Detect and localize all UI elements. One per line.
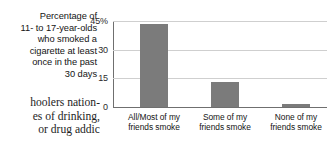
bar-all-most[interactable] — [140, 24, 168, 107]
y-tick-label-15: 15 — [98, 73, 108, 83]
x-axis-baseline — [113, 107, 327, 108]
plot-area: 45% 30 15 0 All/Most of my friends smoke… — [113, 21, 327, 107]
bar-chart: 45% 30 15 0 All/Most of my friends smoke… — [86, 8, 327, 141]
gridline-45 — [113, 21, 327, 22]
page-body-text: hoolers nation- es of drinking, or drug … — [0, 96, 100, 141]
caption-line: once in the past — [0, 57, 97, 69]
caption-line: Percentage of — [0, 11, 97, 23]
y-axis-line — [113, 21, 114, 107]
bar-none[interactable] — [282, 104, 310, 107]
x-label-line: None of my — [275, 112, 317, 122]
caption-line: who smoked a — [0, 34, 97, 46]
x-label-none: None of my friends smoke — [270, 112, 321, 132]
y-tick-label-0: 0 — [103, 102, 108, 112]
caption-line: 11- to 17-year-olds — [0, 23, 97, 35]
bar-some[interactable] — [211, 82, 239, 107]
caption-line: cigarette at least — [0, 46, 97, 58]
chart-caption: Percentage of 11- to 17-year-olds who sm… — [0, 11, 97, 81]
body-text-line: or drug addic — [0, 123, 100, 137]
x-label-line: friends smoke — [270, 122, 321, 132]
x-label-some: Some of my friends smoke — [199, 112, 250, 132]
caption-line: 30 days — [0, 69, 97, 81]
figure-page: Percentage of 11- to 17-year-olds who sm… — [0, 0, 327, 141]
x-label-line: All/Most of my — [128, 112, 180, 122]
body-text-line: hoolers nation- — [0, 96, 100, 110]
y-tick-label-30: 30 — [98, 45, 108, 55]
x-label-line: friends smoke — [199, 122, 250, 132]
y-tick-label-45: 45% — [90, 16, 108, 26]
x-label-line: friends smoke — [128, 122, 179, 132]
x-label-line: Some of my — [203, 112, 247, 122]
body-text-line: es of drinking, — [0, 110, 100, 124]
x-label-all-most: All/Most of my friends smoke — [128, 112, 180, 132]
